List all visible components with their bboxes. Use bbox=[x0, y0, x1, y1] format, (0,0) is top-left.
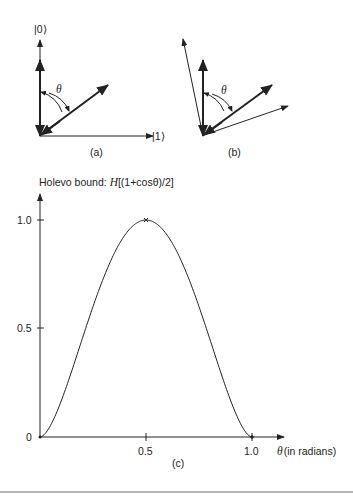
x-axis-label: θ(in radians) bbox=[277, 445, 336, 457]
thin-right-arrow bbox=[204, 106, 288, 135]
y-tick-label-05: 0.5 bbox=[17, 322, 32, 334]
origin-dot bbox=[39, 436, 42, 439]
panel-a: |0⟩ |1⟩ θ (a) bbox=[34, 23, 165, 158]
x-tick-label-1: 1.0 bbox=[244, 445, 259, 457]
x-tick-label-05: 0.5 bbox=[138, 445, 153, 457]
figure-canvas: |0⟩ |1⟩ θ (a) θ (b) Holevo bound: H[(1+c… bbox=[0, 0, 353, 497]
ket0-label: |0⟩ bbox=[34, 23, 47, 35]
panel-c-chart: Holevo bound: H[(1+cosθ)/2] 0 0.5 1.0 0.… bbox=[17, 176, 336, 469]
y-tick-label-1: 1.0 bbox=[17, 214, 32, 226]
holevo-curve bbox=[40, 220, 252, 437]
ket1-label: |1⟩ bbox=[152, 130, 165, 142]
end-dot bbox=[250, 435, 254, 439]
state-diagonal-back-arrow bbox=[41, 121, 60, 135]
thin-left-arrow bbox=[183, 39, 203, 136]
chart-title: Holevo bound: H[(1+cosθ)/2] bbox=[39, 176, 174, 188]
y-tick-label-0: 0 bbox=[26, 431, 32, 443]
caption-a: (a) bbox=[90, 146, 103, 158]
state-diagonal-back-arrow bbox=[204, 122, 222, 135]
caption-b: (b) bbox=[228, 146, 241, 158]
theta-label: θ bbox=[56, 83, 62, 95]
theta-label: θ bbox=[221, 84, 227, 96]
theta-arc bbox=[41, 92, 62, 112]
panel-b: θ (b) bbox=[183, 39, 288, 158]
caption-c: (c) bbox=[172, 457, 184, 469]
